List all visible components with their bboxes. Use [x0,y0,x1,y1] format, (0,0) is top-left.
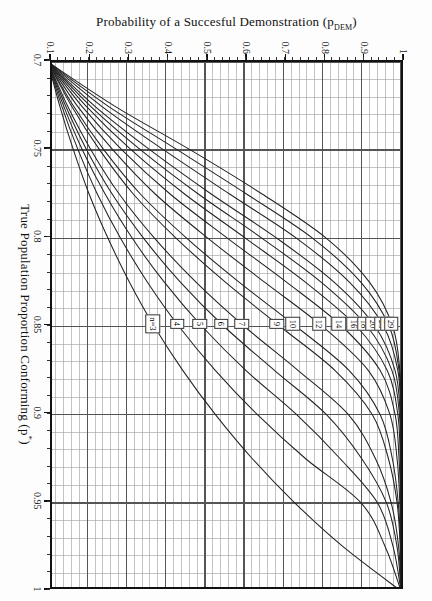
x-minor-tick-mark [47,113,50,114]
x-minor-tick-mark [47,589,50,590]
y-minor-tick-mark [65,57,66,60]
curve-label-7: 7 [234,319,249,329]
curve-label-5: 5 [193,319,208,329]
curve-label-9: 9 [270,319,285,329]
curve-label-29: 29 [384,317,399,332]
y-minor-tick-mark [120,57,121,60]
y-minor-tick-mark [331,57,332,60]
x-minor-tick-mark [47,95,50,96]
y-minor-tick-mark [355,57,356,60]
y-minor-tick-mark [96,57,97,60]
x-minor-tick-mark [47,518,50,519]
curve-label-3: n=3 [146,314,161,333]
y-minor-tick-mark [143,57,144,60]
x-minor-tick-mark [47,183,50,184]
x-minor-tick-mark [47,307,50,308]
y-axis-title-text: Probability of a Succesful Demonstration… [96,14,334,29]
y-minor-tick-mark [316,57,317,60]
x-minor-tick-mark [47,236,50,237]
x-minor-tick-mark [47,430,50,431]
y-minor-tick-mark [151,57,152,60]
y-minor-tick-mark [182,57,183,60]
y-minor-tick-mark [104,57,105,60]
y-minor-tick-mark [80,57,81,60]
y-minor-tick-mark [308,57,309,60]
y-minor-tick-mark [253,57,254,60]
x-minor-tick-mark [47,60,50,61]
curve-label-4: 4 [170,319,185,329]
y-axis-title: Probability of a Succesful Demonstration… [50,14,403,32]
x-minor-tick-mark [47,536,50,537]
x-minor-tick-mark [47,360,50,361]
x-minor-tick-mark [47,571,50,572]
x-minor-tick-mark [47,219,50,220]
y-axis-title-tail: ) [352,14,357,29]
y-minor-tick-mark [135,57,136,60]
y-minor-tick-mark [292,57,293,60]
x-axis-title-text: True Population Proportion Conforming (p [18,204,33,435]
y-minor-tick-mark [198,57,199,60]
y-minor-tick-mark [57,57,58,60]
x-axis-title-tail: ) [18,440,33,445]
y-minor-tick-mark [269,57,270,60]
y-minor-tick-mark [175,57,176,60]
x-minor-tick-mark [47,413,50,414]
figure-page: n=345679101214161820232629 0.70.750.80.8… [0,0,432,601]
y-minor-tick-mark [127,57,128,60]
x-minor-tick-mark [47,201,50,202]
x-minor-tick-mark [47,166,50,167]
y-minor-tick-mark [167,57,168,60]
y-minor-tick-mark [284,57,285,60]
y-minor-tick-mark [378,57,379,60]
x-axis-title: True Population Proportion Conforming (p… [17,60,34,589]
y-minor-tick-mark [229,57,230,60]
y-minor-tick-mark [222,57,223,60]
y-minor-tick-mark [394,57,395,60]
y-minor-tick-mark [73,57,74,60]
y-minor-tick-mark [339,57,340,60]
x-minor-tick-mark [47,501,50,502]
y-minor-tick-mark [300,57,301,60]
y-minor-tick-mark [261,57,262,60]
y-axis-title-subscript: DEM [334,23,352,32]
x-minor-tick-mark [47,148,50,149]
x-minor-tick-mark [47,448,50,449]
y-minor-tick-mark [277,57,278,60]
y-minor-tick-mark [347,57,348,60]
y-minor-tick-mark [386,57,387,60]
x-minor-tick-mark [47,325,50,326]
y-minor-tick-mark [206,57,207,60]
x-minor-tick-mark [47,131,50,132]
x-minor-tick-mark [47,554,50,555]
y-minor-tick-mark [363,57,364,60]
curve-label-14: 14 [332,317,347,332]
x-minor-tick-mark [47,342,50,343]
curve-label-10: 10 [286,317,301,332]
x-minor-tick-mark [47,377,50,378]
y-minor-tick-mark [159,57,160,60]
plot-area: n=345679101214161820232629 [50,60,403,589]
y-minor-tick-mark [88,57,89,60]
y-minor-tick-mark [190,57,191,60]
x-minor-tick-mark [47,483,50,484]
y-minor-tick-mark [49,57,50,60]
y-minor-tick-mark [324,57,325,60]
rotated-figure-wrapper: n=345679101214161820232629 0.70.750.80.8… [0,0,432,601]
y-minor-tick-mark [371,57,372,60]
chart-figure: n=345679101214161820232629 0.70.750.80.8… [0,0,432,601]
y-minor-tick-mark [402,57,403,60]
y-minor-tick-mark [245,57,246,60]
x-minor-tick-mark [47,78,50,79]
x-minor-tick-mark [47,272,50,273]
y-minor-tick-mark [112,57,113,60]
curve-label-6: 6 [214,319,229,329]
x-minor-tick-mark [47,289,50,290]
x-minor-tick-mark [47,254,50,255]
y-minor-tick-mark [214,57,215,60]
curve-label-12: 12 [312,317,327,332]
x-minor-tick-mark [47,395,50,396]
x-minor-tick-mark [47,466,50,467]
y-minor-tick-mark [237,57,238,60]
